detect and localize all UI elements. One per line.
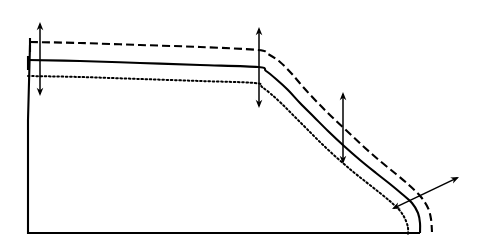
lower-profile-dotted [28,76,408,234]
upper-profile-dashed [30,42,432,232]
diagram-canvas [0,0,485,249]
left-gap-arrow [37,22,44,96]
profile-curves [28,42,432,234]
middle-profile-solid [28,60,420,233]
domain-boundary-path [28,45,420,233]
flow-domain-outline [28,45,420,233]
technical-line-diagram [0,0,485,249]
midspan-gap-arrow [340,92,347,164]
